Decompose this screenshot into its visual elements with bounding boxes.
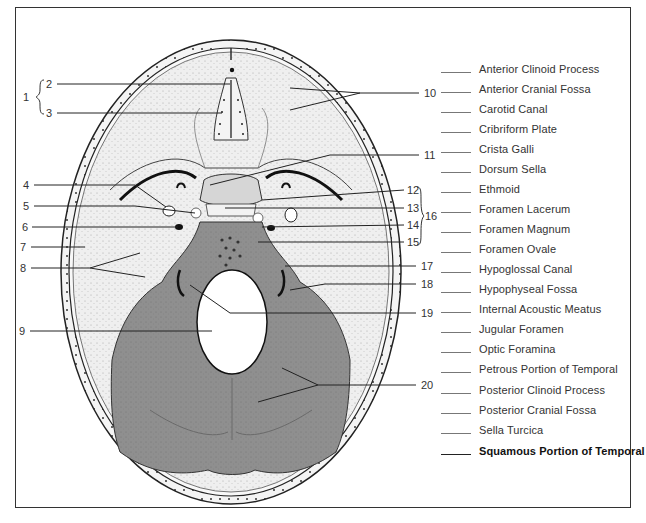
label-11: 11: [424, 149, 435, 161]
answer-blank[interactable]: [441, 272, 471, 273]
answer-blank[interactable]: [441, 212, 471, 213]
word-bank-item: Optic Foramina: [441, 341, 556, 357]
word-bank-item: Petrous Portion of Temporal: [441, 361, 618, 377]
word-bank-item: Ethmoid: [441, 181, 520, 197]
answer-blank[interactable]: [441, 252, 471, 253]
answer-blank[interactable]: [441, 292, 471, 293]
word-bank-item: Dorsum Sella: [441, 161, 546, 177]
term-label: Jugular Foramen: [479, 323, 564, 335]
label-14: 14: [407, 219, 419, 231]
word-bank-item: Hypoglossal Canal: [441, 261, 572, 277]
label-20: 20: [421, 379, 433, 391]
answer-blank[interactable]: [441, 132, 471, 133]
term-label: Foramen Magnum: [479, 223, 570, 235]
foramen-ovale-left: [163, 206, 175, 216]
brace-1: [36, 80, 44, 114]
term-label: Foramen Ovale: [479, 243, 556, 255]
word-bank-item: Internal Acoustic Meatus: [441, 301, 601, 317]
term-label: Anterior Clinoid Process: [479, 63, 599, 75]
word-bank-item: Carotid Canal: [441, 101, 548, 117]
dorsum-sella: [206, 204, 256, 216]
word-bank-item: Hypophyseal Fossa: [441, 281, 577, 297]
label-15: 15: [407, 236, 419, 248]
label-7: 7: [20, 241, 26, 253]
term-label: Hypoglossal Canal: [479, 263, 572, 275]
term-label: Squamous Portion of Temporal: [479, 445, 645, 457]
answer-blank[interactable]: [441, 192, 471, 193]
term-label: Petrous Portion of Temporal: [479, 363, 618, 375]
answer-blank[interactable]: [441, 152, 471, 153]
label-5: 5: [23, 200, 29, 212]
sella-turcica: [200, 174, 262, 206]
label-10: 10: [424, 87, 436, 99]
foramen-ovale-right: [285, 208, 297, 222]
word-bank-item: Foramen Lacerum: [441, 201, 570, 217]
answer-blank[interactable]: [441, 332, 471, 333]
label-4: 4: [23, 179, 29, 191]
label-13: 13: [407, 202, 419, 214]
term-label: Anterior Cranial Fossa: [479, 83, 591, 95]
foramen-magnum: [197, 270, 267, 374]
term-label: Foramen Lacerum: [479, 203, 570, 215]
word-bank-item: Jugular Foramen: [441, 321, 564, 337]
answer-blank[interactable]: [441, 433, 471, 434]
label-1: 1: [23, 91, 29, 103]
label-18: 18: [421, 278, 433, 290]
label-2: 2: [46, 78, 52, 90]
label-17: 17: [421, 260, 433, 272]
word-bank-item: Anterior Clinoid Process: [441, 61, 599, 77]
carotid-canal-right: [267, 225, 275, 231]
word-bank-item: Foramen Magnum: [441, 221, 570, 237]
label-3: 3: [46, 107, 52, 119]
term-label: Hypophyseal Fossa: [479, 283, 577, 295]
answer-blank[interactable]: [441, 312, 471, 313]
word-bank-item: Squamous Portion of Temporal: [441, 443, 645, 459]
term-label: Crista Galli: [479, 143, 534, 155]
word-bank-item: Sella Turcica: [441, 422, 543, 438]
word-bank-item: Cribriform Plate: [441, 121, 557, 137]
word-bank-item: Anterior Cranial Fossa: [441, 81, 591, 97]
word-bank-item: Foramen Ovale: [441, 241, 556, 257]
label-16: 16: [425, 210, 437, 222]
term-label: Posterior Clinoid Process: [479, 384, 605, 396]
answer-blank[interactable]: [441, 454, 471, 455]
term-label: Posterior Cranial Fossa: [479, 404, 596, 416]
term-label: Optic Foramina: [479, 343, 556, 355]
label-19: 19: [421, 307, 433, 319]
answer-blank[interactable]: [441, 413, 471, 414]
label-9: 9: [19, 325, 25, 337]
answer-blank[interactable]: [441, 372, 471, 373]
answer-blank[interactable]: [441, 112, 471, 113]
answer-blank[interactable]: [441, 72, 471, 73]
label-12: 12: [407, 184, 419, 196]
word-bank-item: Posterior Cranial Fossa: [441, 402, 596, 418]
term-label: Carotid Canal: [479, 103, 548, 115]
word-bank-item: Crista Galli: [441, 141, 534, 157]
term-label: Ethmoid: [479, 183, 520, 195]
term-label: Sella Turcica: [479, 424, 543, 436]
answer-blank[interactable]: [441, 92, 471, 93]
word-bank-item: Posterior Clinoid Process: [441, 382, 605, 398]
answer-blank[interactable]: [441, 172, 471, 173]
term-label: Internal Acoustic Meatus: [479, 303, 601, 315]
answer-blank[interactable]: [441, 393, 471, 394]
label-6: 6: [22, 221, 28, 233]
label-8: 8: [20, 262, 26, 274]
term-label: Cribriform Plate: [479, 123, 557, 135]
term-label: Dorsum Sella: [479, 163, 546, 175]
answer-blank[interactable]: [441, 352, 471, 353]
answer-blank[interactable]: [441, 232, 471, 233]
